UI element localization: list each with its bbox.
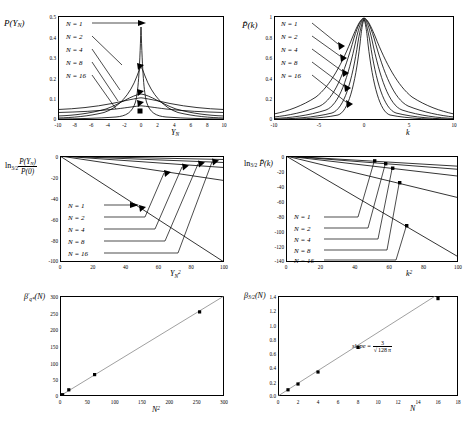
panel-e-scatter xyxy=(60,296,224,396)
panel-a-ytick-6: 0 xyxy=(38,116,56,122)
panel-d-x-axis-label: k2 xyxy=(406,269,412,278)
panel-d-ytick-6: -120 xyxy=(266,244,284,250)
panel-d-y-axis-label: ln3/2 P̃(k) xyxy=(244,159,273,168)
panel-d-log-fourier-space: ln3/2 P̃(k) 0 -20 -40 -60 -80 -100 -120 … xyxy=(234,145,468,290)
panel-d-ylabel-ln-sub: 3/2 xyxy=(250,162,257,168)
panel-b-ytick-4: 0.2 xyxy=(256,96,272,102)
panel-b-xtick-1: -5 xyxy=(317,122,321,128)
panel-d-ytick-7: -140 xyxy=(266,258,284,264)
panel-a-xlabel-sub: N xyxy=(175,131,179,137)
panel-d-xtick-0: 0 xyxy=(285,264,288,270)
panel-a-distribution-real-space: P(YN) 0.5 0.4 0.3 0.3 0.2 0.1 0 -10 -8 -… xyxy=(0,0,234,145)
panel-a-x-axis-label: YN xyxy=(171,128,179,137)
panel-b-curves xyxy=(274,16,454,120)
panel-c-ytick-0: 0 xyxy=(42,154,58,160)
panel-b-x-axis-label: k xyxy=(406,128,410,137)
panel-e-ytick-1: 250 xyxy=(42,311,58,317)
panel-f-ylabel-sub: 3/2 xyxy=(248,294,255,300)
panel-c-ylabel-den: P(0) xyxy=(18,167,37,176)
panel-e-xtick-1: 50 xyxy=(85,399,90,405)
panel-c-xtick-4: 80 xyxy=(189,264,194,270)
panel-e-x-axis-label: N2 xyxy=(152,405,160,414)
panel-c-ytick-3: -60 xyxy=(42,217,58,223)
panel-f-ytick-6: 0.2 xyxy=(258,380,276,386)
panel-a-xtick-2: -6 xyxy=(89,122,93,128)
panel-a-ylabel-paren: (Y xyxy=(10,18,18,28)
panel-b-ytick-0: 1 xyxy=(256,14,272,20)
panel-a-xtick-9: 8 xyxy=(206,122,209,128)
panel-e-xtick-2: 100 xyxy=(111,399,119,405)
panel-b-characteristic-function: P̃(k) 1 0.8 0.6 0.4 0.2 0 -10 -5 0 5 10 … xyxy=(234,0,468,145)
panel-b-ytick-3: 0.4 xyxy=(256,76,272,82)
panel-e-ytick-5: 50 xyxy=(42,377,58,383)
panel-e-ytick-3: 150 xyxy=(42,344,58,350)
panel-d-ytick-0: 0 xyxy=(268,154,284,160)
panel-d-ytick-5: -100 xyxy=(266,229,284,235)
panel-f-xtick-7: 14 xyxy=(415,399,420,405)
panel-c-ytick-4: -80 xyxy=(42,238,58,244)
panel-c-ylabel-ln-sub: 3/2 xyxy=(11,165,18,171)
panel-c-x-axis-label: YN2 xyxy=(170,269,181,279)
panel-a-xtick-10: 10 xyxy=(221,122,226,128)
panel-a-curves xyxy=(58,16,224,120)
panel-f-ytick-3: 0.8 xyxy=(258,337,276,343)
panel-a-ylabel-close: ) xyxy=(22,18,25,28)
panel-e-xtick-4: 200 xyxy=(165,399,173,405)
panel-d-ytick-3: -60 xyxy=(268,199,284,205)
panel-f-ytick-4: 0.6 xyxy=(258,351,276,357)
panel-c-ytick-2: -40 xyxy=(42,196,58,202)
panel-a-y-axis-label: P(YN) xyxy=(4,18,25,28)
panel-a-ytick-4: 0.2 xyxy=(38,76,56,82)
panel-f-x-axis-label: N xyxy=(410,404,415,413)
panel-e-ytick-6: 0 xyxy=(42,393,58,399)
panel-f-ytick-5: 0.4 xyxy=(258,365,276,371)
panel-c-xlabel-sup: 2 xyxy=(178,269,181,275)
panel-c-ylabel-num: P(Y xyxy=(19,157,30,166)
panel-e-ytick-0: 300 xyxy=(42,294,58,300)
panel-a-xtick-1: -8 xyxy=(72,122,76,128)
panel-e-ytick-4: 100 xyxy=(42,361,58,367)
panel-d-ytick-1: -20 xyxy=(268,169,284,175)
panel-d-xtick-4: 80 xyxy=(421,264,426,270)
panel-d-ylabel-arg: P̃(k) xyxy=(259,159,273,168)
panel-a-xtick-3: -4 xyxy=(106,122,110,128)
panel-a-xtick-0: -10 xyxy=(55,122,62,128)
panel-a-xtick-4: -2 xyxy=(122,122,126,128)
panel-f-xtick-9: 18 xyxy=(455,399,460,405)
panel-f-scatter xyxy=(278,296,458,396)
panel-e-xtick-5: 250 xyxy=(193,399,201,405)
panel-f-ytick-0: 1.4 xyxy=(258,294,276,300)
panel-f-ytick-2: 1.0 xyxy=(258,323,276,329)
panel-d-xtick-3: 60 xyxy=(387,264,392,270)
panel-f-xtick-5: 10 xyxy=(375,399,380,405)
panel-e-ytick-2: 200 xyxy=(42,327,58,333)
panel-f-xtick-1: 2 xyxy=(297,399,300,405)
panel-c-xtick-3: 60 xyxy=(156,264,161,270)
panel-c-xtick-5: 100 xyxy=(220,264,228,270)
panel-a-ytick-5: 0.1 xyxy=(38,96,56,102)
panel-c-y-axis-label: ln3/2P(YN)P(0) xyxy=(5,157,37,176)
panel-d-xtick-1: 20 xyxy=(318,264,323,270)
panel-e-xtick-6: 300 xyxy=(220,399,228,405)
panel-f-xtick-8: 16 xyxy=(435,399,440,405)
panel-a-ytick-2: 0.3 xyxy=(38,55,56,61)
panel-e-beta-q-star-vs-n-squared: β'q*(N) 300 250 200 150 100 50 0 0 50 10… xyxy=(0,290,234,432)
panel-c-lines xyxy=(60,156,224,262)
panel-c-xtick-0: 0 xyxy=(59,264,62,270)
panel-f-xtick-2: 4 xyxy=(317,399,320,405)
panel-c-ytick-5: -100 xyxy=(40,258,58,264)
panel-f-xtick-4: 8 xyxy=(357,399,360,405)
panel-c-ylabel-num-close: ) xyxy=(34,157,36,166)
panel-a-xtick-8: 6 xyxy=(190,122,193,128)
panel-b-xtick-0: -10 xyxy=(271,122,278,128)
panel-c-xtick-1: 20 xyxy=(90,264,95,270)
panel-f-xtick-0: 0 xyxy=(277,399,280,405)
panel-d-xlabel-sup: 2 xyxy=(410,269,413,275)
panel-c-xtick-2: 40 xyxy=(123,264,128,270)
panel-a-xtick-6: 2 xyxy=(156,122,159,128)
panel-d-lines xyxy=(286,156,458,262)
panel-f-ytick-1: 1.2 xyxy=(258,308,276,314)
panel-c-ylabel-fraction: P(YN)P(0) xyxy=(18,157,37,176)
panel-d-ytick-2: -40 xyxy=(268,184,284,190)
panel-d-ytick-4: -80 xyxy=(268,214,284,220)
